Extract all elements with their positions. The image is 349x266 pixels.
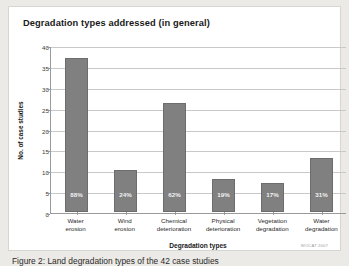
bar[interactable]: 19% (212, 179, 236, 212)
bar-value-label: 17% (262, 191, 284, 198)
bar[interactable]: 31% (310, 158, 334, 212)
x-axis-tick-label-line: degradation (297, 225, 346, 233)
bar-series: 88%24%62%19%17%31% (52, 47, 346, 212)
x-axis-tick-label: Physicaldeterioration (199, 217, 248, 232)
bar-slot: 62% (150, 47, 199, 212)
x-axis-tick-label: Watererosion (51, 217, 100, 232)
y-axis-tick-label: 0 (23, 211, 49, 218)
x-axis-tick-label-line: deterioration (199, 225, 248, 233)
x-axis-tick-label-line: deterioration (149, 225, 198, 233)
bar[interactable]: 24% (114, 170, 138, 212)
bar-value-label: 62% (164, 191, 186, 198)
x-axis-tick-mark (322, 212, 323, 215)
y-axis-tick-label: 5 (23, 190, 49, 197)
bar-slot: 88% (52, 47, 101, 212)
x-axis-tick-mark (273, 212, 274, 215)
y-axis-tick-label: 10 (23, 169, 49, 176)
y-axis-tick-label: 15 (23, 148, 49, 155)
x-axis-tick-label-line: erosion (51, 225, 100, 233)
bar[interactable]: 62% (163, 103, 187, 212)
x-axis-tick-label: Winderosion (100, 217, 149, 232)
bar-value-label: 31% (311, 191, 333, 198)
bar-value-label: 24% (115, 191, 137, 198)
chart-credit: WOCAT 2007 (301, 243, 328, 248)
x-axis-tick-label-line: Wind (100, 217, 149, 225)
y-axis-tick-label: 35 (23, 64, 49, 71)
y-axis-tick-label: 40 (23, 44, 49, 51)
bar[interactable]: 17% (261, 183, 285, 212)
chart-panel: Degradation types addressed (in general)… (8, 6, 341, 251)
bar-slot: 24% (101, 47, 150, 212)
x-axis-tick-label-line: Physical (199, 217, 248, 225)
x-axis-tick-label-line: erosion (100, 225, 149, 233)
bar-slot: 19% (199, 47, 248, 212)
x-axis-tick-label: Chemicaldeterioration (149, 217, 198, 232)
chart-title: Degradation types addressed (in general) (23, 18, 210, 28)
plot-wrapper: 88%24%62%19%17%31% (50, 47, 346, 214)
x-axis-tick-mark (224, 212, 225, 215)
x-axis-tick-label-line: Water (297, 217, 346, 225)
x-axis-tick-labels: WatererosionWinderosionChemicaldeteriora… (51, 217, 346, 232)
figure-caption: Figure 2: Land degradation types of the … (12, 256, 342, 266)
x-axis-tick-mark (175, 212, 176, 215)
x-axis-tick-label-line: degradation (248, 225, 297, 233)
x-axis-tick-mark (77, 212, 78, 215)
plot-area: 88%24%62%19%17%31% (50, 47, 346, 214)
x-axis-tick-label: Vegetationdegradation (248, 217, 297, 232)
bar-value-label: 19% (213, 191, 235, 198)
y-axis-tick-label: 30 (23, 85, 49, 92)
x-axis-tick-label: Waterdegradation (297, 217, 346, 232)
x-axis-tick-mark (126, 212, 127, 215)
y-axis-tick-label: 20 (23, 127, 49, 134)
y-axis-tick-mark (47, 214, 50, 215)
x-axis-tick-label-line: Water (51, 217, 100, 225)
x-axis-tick-label-line: Chemical (149, 217, 198, 225)
y-axis-tick-label: 25 (23, 106, 49, 113)
bar-slot: 31% (297, 47, 346, 212)
bar-slot: 17% (248, 47, 297, 212)
bar[interactable]: 88% (65, 58, 89, 212)
x-axis-tick-label-line: Vegetation (248, 217, 297, 225)
bar-value-label: 88% (66, 191, 88, 198)
